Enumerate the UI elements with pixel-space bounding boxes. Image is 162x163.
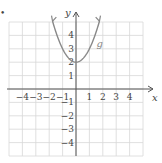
bullet-marker: • [0, 8, 5, 18]
y-tick-label: 1 [68, 71, 74, 81]
graph: • −4−3−2−11234−4−3−2−11234 x y g [0, 0, 162, 163]
x-tick-label: 2 [100, 92, 106, 102]
y-tick-label: −4 [61, 138, 75, 148]
x-axis-label: x [152, 92, 158, 103]
y-tick-label: −3 [61, 124, 75, 134]
y-tick-label: −1 [61, 97, 74, 107]
curve-arrow-icon [96, 16, 101, 21]
x-tick-label: 3 [113, 92, 119, 102]
x-tick-label: 4 [127, 92, 133, 102]
axes [7, 12, 153, 156]
x-tick-label: 1 [87, 92, 93, 102]
x-tick-label: −3 [29, 92, 43, 102]
y-axis-label: y [64, 7, 71, 18]
y-tick-label: 4 [68, 30, 74, 40]
y-tick-label: −2 [61, 111, 74, 121]
curve-label-g: g [96, 38, 102, 49]
curve-arrow-icon [52, 16, 57, 21]
y-tick-label: 3 [68, 44, 74, 54]
x-tick-label: −2 [43, 92, 56, 102]
x-tick-label: −4 [16, 92, 30, 102]
